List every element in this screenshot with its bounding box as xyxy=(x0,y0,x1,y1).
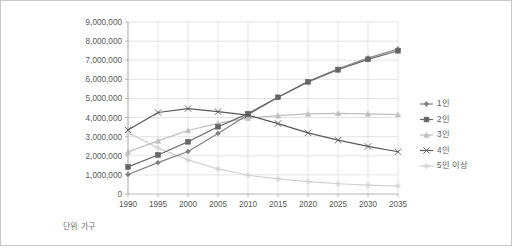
legend-label: 5인 이상 xyxy=(437,160,468,170)
data-point xyxy=(126,172,131,177)
y-axis-tick-label: 2,000,000 xyxy=(86,152,123,161)
axes-group xyxy=(128,22,398,194)
x-axis-tick-label: 2000 xyxy=(179,200,198,209)
legend-item-4[interactable]: 4인 xyxy=(420,145,450,155)
data-point xyxy=(306,79,311,84)
y-axis-tick-label: 9,000,000 xyxy=(86,18,123,27)
data-point xyxy=(396,48,401,53)
data-point xyxy=(335,181,341,187)
x-axis-tick-label: 2005 xyxy=(209,200,228,209)
y-axis-tick-label: 1,000,000 xyxy=(86,171,123,180)
x-axis-tick-label: 1990 xyxy=(119,200,138,209)
data-point xyxy=(186,139,191,144)
legend-item-3[interactable]: 3인 xyxy=(420,129,450,139)
legend-marker xyxy=(424,117,429,122)
series-2 xyxy=(126,48,401,169)
legend-marker xyxy=(424,102,429,107)
legend-label: 1인 xyxy=(437,98,450,108)
legend-item-5[interactable]: 5인 이상 xyxy=(420,160,468,170)
y-axis-tick-label: 3,000,000 xyxy=(86,133,123,142)
chart-canvas: 01,000,0002,000,0003,000,0004,000,0005,0… xyxy=(1,1,513,247)
y-axis-tick-label: 6,000,000 xyxy=(86,75,123,84)
legend-label: 3인 xyxy=(437,129,450,139)
x-axis-tick-label: 2030 xyxy=(359,200,378,209)
x-axis-ticks-group xyxy=(128,194,398,197)
x-axis-tick-label: 2035 xyxy=(389,200,408,209)
y-axis-tick-label: 4,000,000 xyxy=(86,114,123,123)
data-point xyxy=(126,164,131,169)
legend: 1인2인3인4인5인 이상 xyxy=(420,98,468,170)
legend-label: 4인 xyxy=(437,145,450,155)
x-axis-tick-label: 2015 xyxy=(269,200,288,209)
data-point xyxy=(366,57,371,62)
data-point xyxy=(275,176,281,182)
gridlines-group xyxy=(128,22,398,194)
data-point xyxy=(155,145,161,151)
y-axis-tick-label: 7,000,000 xyxy=(86,56,123,65)
line-chart: 01,000,0002,000,0003,000,0004,000,0005,0… xyxy=(1,1,513,247)
legend-label: 2인 xyxy=(437,114,450,124)
chart-frame: 01,000,0002,000,0003,000,0004,000,0005,0… xyxy=(0,0,512,246)
data-point xyxy=(185,157,191,163)
data-point xyxy=(245,172,251,178)
y-axis-tick-label: 5,000,000 xyxy=(86,94,123,103)
y-axis-tick-label: 0 xyxy=(117,190,122,199)
data-point xyxy=(395,183,401,189)
legend-item-1[interactable]: 1인 xyxy=(420,98,450,108)
x-axis-tick-label: 1995 xyxy=(149,200,168,209)
legend-item-2[interactable]: 2인 xyxy=(420,114,450,124)
x-axis-tick-label: 2020 xyxy=(299,200,318,209)
y-axis-labels-group: 01,000,0002,000,0003,000,0004,000,0005,0… xyxy=(86,18,123,199)
y-axis-tick-label: 8,000,000 xyxy=(86,37,123,46)
data-point xyxy=(336,67,341,72)
data-point xyxy=(216,124,221,129)
legend-marker xyxy=(423,163,429,169)
series-4 xyxy=(125,105,401,155)
x-axis-tick-label: 2010 xyxy=(239,200,258,209)
data-point xyxy=(156,160,161,165)
x-axis-tick-label: 2025 xyxy=(329,200,348,209)
data-series-group xyxy=(125,47,401,190)
data-point xyxy=(365,182,371,188)
data-point xyxy=(305,178,311,184)
chart-footnote: 단위: 가구 xyxy=(63,221,95,231)
data-point xyxy=(276,95,281,100)
data-point xyxy=(156,153,161,158)
x-axis-labels-group: 1990199520002005201020152020202520302035 xyxy=(119,200,408,209)
data-point xyxy=(215,166,221,172)
